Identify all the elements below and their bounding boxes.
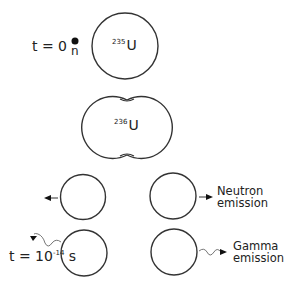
u235-label: 235U: [112, 37, 137, 53]
gamma-wave-left: [34, 234, 61, 247]
neutron-symbol: n: [71, 45, 79, 58]
time-end-exponent: -14: [53, 249, 64, 257]
time-end-prefix: t = 10: [9, 248, 53, 264]
time-start-label: t = 0: [32, 40, 67, 53]
neutron-emission-line2: emission: [217, 197, 268, 209]
gamma-arrow-right-head: [220, 249, 227, 255]
gamma-wave-right: [199, 249, 221, 255]
u236-mass-number: 236: [114, 118, 127, 126]
fragment-mid-right: [150, 173, 196, 219]
time-end-label: t = 10-14 s: [9, 247, 76, 263]
u235-element: U: [126, 37, 136, 53]
gamma-emission-line2: emission: [233, 252, 284, 264]
time-end-unit: s: [69, 248, 76, 264]
gamma-arrow-left-head: [30, 236, 37, 241]
gamma-emission-label: Gamma emission: [233, 240, 284, 264]
u236-element: U: [128, 117, 138, 133]
fragment-mid-left: [61, 175, 106, 220]
neutron-arrow-left-head: [44, 195, 51, 201]
fragment-bottom-right: [151, 229, 197, 275]
u236-label: 236U: [114, 117, 139, 133]
neutron-emission-label: Neutron emission: [217, 185, 268, 209]
u235-mass-number: 235: [112, 38, 125, 46]
neutron-arrow-right-head: [206, 194, 213, 200]
